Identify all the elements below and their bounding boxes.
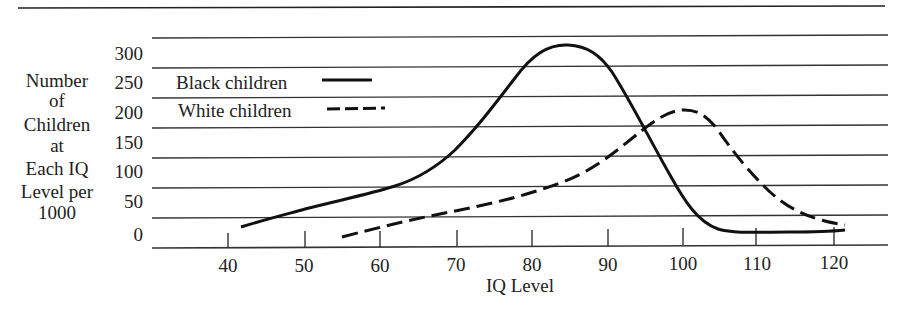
- y-tick-100: 100: [115, 161, 144, 182]
- y-tick-150: 150: [115, 132, 144, 153]
- series-white-children: [342, 110, 845, 237]
- x-axis-title: IQ Level: [486, 275, 554, 296]
- svg-text:1000: 1000: [38, 202, 76, 223]
- x-tick-120: 120: [820, 252, 849, 273]
- y-tick-300: 300: [115, 43, 144, 64]
- svg-text:Level per: Level per: [21, 181, 94, 202]
- y-axis-title: Number of Children at Each IQ Level per …: [21, 70, 94, 223]
- x-tick-90: 90: [599, 254, 618, 275]
- x-tick-110: 110: [743, 253, 771, 274]
- iq-distribution-chart: 40 50 60 70 80 90 100 110 120 IQ Level 3…: [0, 0, 910, 324]
- legend-white-label: White children: [178, 100, 292, 121]
- legend: Black children White children: [176, 72, 385, 121]
- y-tick-labels: 300 250 200 150 100 50 0: [115, 43, 144, 245]
- x-axis-line: [152, 245, 888, 248]
- svg-text:Each IQ: Each IQ: [26, 158, 89, 179]
- y-tick-50: 50: [124, 191, 143, 212]
- y-tick-200: 200: [115, 102, 144, 123]
- svg-text:at: at: [50, 135, 64, 156]
- legend-black-label: Black children: [176, 72, 288, 93]
- y-tick-0: 0: [134, 224, 144, 245]
- x-tick-60: 60: [371, 255, 390, 276]
- svg-text:Number: Number: [26, 70, 89, 91]
- y-tick-250: 250: [115, 72, 144, 93]
- top-rule: [18, 6, 885, 8]
- legend-dashed-line-icon: [327, 108, 385, 109]
- svg-text:of: of: [49, 90, 66, 111]
- x-tick-70: 70: [447, 254, 466, 275]
- x-tick-labels: 40 50 60 70 80 90 100 110 120: [219, 252, 849, 276]
- x-ticks: [228, 227, 834, 247]
- x-tick-40: 40: [219, 255, 238, 276]
- x-tick-80: 80: [523, 254, 542, 275]
- series-black-children: [241, 45, 845, 232]
- x-tick-100: 100: [669, 253, 698, 274]
- svg-text:Children: Children: [24, 114, 91, 135]
- gridlines: [152, 35, 888, 248]
- x-tick-50: 50: [295, 255, 314, 276]
